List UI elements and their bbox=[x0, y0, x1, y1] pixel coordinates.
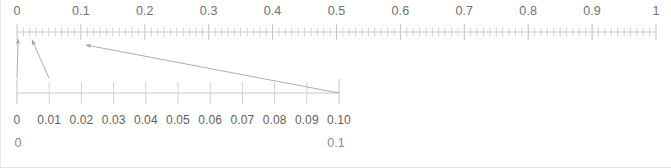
zoom-scale-tick-label: 0 bbox=[14, 113, 21, 127]
top-scale-tick-label: 0.8 bbox=[519, 4, 537, 18]
zoom-scale-tick-label: 0.01 bbox=[37, 113, 61, 127]
footer-label-start: 0 bbox=[14, 136, 21, 150]
top-scale-tick-label: 0.2 bbox=[136, 4, 154, 18]
zoom-scale-tick-label: 0.04 bbox=[134, 113, 158, 127]
zoom-scale-tick-label: 0.03 bbox=[102, 113, 126, 127]
footer-label-end: 0.1 bbox=[327, 136, 345, 150]
zoom-connector-mid bbox=[32, 40, 49, 78]
top-scale-tick-label: 0.1 bbox=[72, 4, 90, 18]
number-line-figure: 00.10.20.30.40.50.60.70.80.91 00.010.020… bbox=[0, 0, 671, 168]
zoom-scale-tick-label: 0.10 bbox=[327, 113, 351, 127]
top-scale-tick-label: 1 bbox=[652, 4, 659, 18]
zoom-scale-tick-label: 0.06 bbox=[198, 113, 222, 127]
top-scale-tick-label: 0.5 bbox=[328, 4, 346, 18]
top-scale-tick-label: 0.3 bbox=[200, 4, 218, 18]
top-scale-tick-label: 0.6 bbox=[392, 4, 410, 18]
zoom-connector-right bbox=[86, 45, 339, 93]
top-scale-tick-label: 0.9 bbox=[583, 4, 601, 18]
top-scale-tick-label: 0.7 bbox=[455, 4, 473, 18]
zoom-scale-tick-label: 0.02 bbox=[70, 113, 94, 127]
top-scale-tick-label: 0 bbox=[13, 4, 20, 18]
zoom-scale-tick-label: 0.07 bbox=[231, 113, 255, 127]
zoom-scale-axis bbox=[17, 79, 339, 104]
top-scale-axis bbox=[17, 24, 656, 40]
zoom-scale-tick-label: 0.08 bbox=[263, 113, 287, 127]
zoom-scale-tick-label: 0.05 bbox=[166, 113, 190, 127]
zoom-scale-tick-label: 0.09 bbox=[295, 113, 319, 127]
top-scale-tick-label: 0.4 bbox=[264, 4, 282, 18]
zoom-connector-left bbox=[17, 39, 18, 78]
